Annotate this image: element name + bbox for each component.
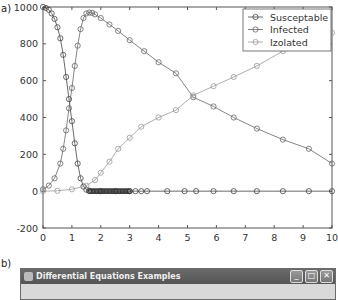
y-tick-label: -200 <box>16 223 38 234</box>
x-tick-label: 0 <box>40 232 46 243</box>
window-titlebar[interactable]: Differential Equations Examples _ □ ✕ <box>21 269 335 284</box>
y-tick-label: 600 <box>20 75 38 86</box>
x-tick-label: 2 <box>98 232 104 243</box>
panel-b-label: b) <box>1 258 11 269</box>
x-tick-label: 10 <box>326 232 338 243</box>
close-button[interactable]: ✕ <box>320 270 333 283</box>
sir-line-chart: 012345678910-20002004006008001000Suscept… <box>0 0 338 250</box>
legend-entry: Izolated <box>270 37 308 48</box>
x-tick-label: 9 <box>300 232 306 243</box>
x-tick-label: 1 <box>69 232 75 243</box>
x-tick-label: 7 <box>242 232 248 243</box>
legend-entry: Susceptable <box>270 12 328 23</box>
app-window: Differential Equations Examples _ □ ✕ <box>20 268 336 300</box>
app-icon <box>24 272 33 281</box>
maximize-button[interactable]: □ <box>305 270 318 283</box>
y-tick-label: 800 <box>20 38 38 49</box>
window-title: Differential Equations Examples <box>36 272 290 281</box>
x-tick-label: 5 <box>184 232 190 243</box>
x-tick-label: 8 <box>271 232 277 243</box>
series-izolated <box>40 30 334 194</box>
y-tick-label: 200 <box>20 149 38 160</box>
y-tick-label: 1000 <box>14 2 38 13</box>
x-tick-label: 4 <box>156 232 162 243</box>
y-tick-label: 400 <box>20 112 38 123</box>
minimize-button[interactable]: _ <box>290 270 303 283</box>
x-tick-label: 6 <box>213 232 219 243</box>
chart-legend: SusceptableInfectedIzolated <box>243 9 331 51</box>
y-tick-label: 0 <box>32 186 38 197</box>
legend-entry: Infected <box>270 24 309 35</box>
x-tick-label: 3 <box>127 232 133 243</box>
